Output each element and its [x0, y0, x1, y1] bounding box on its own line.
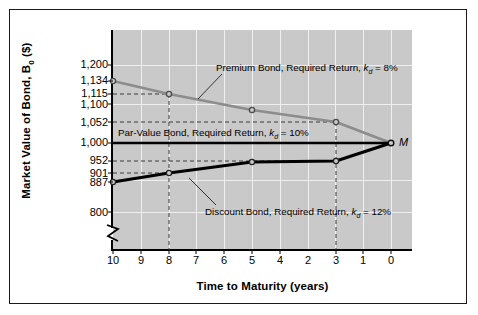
y-tick-label-1052: 1,052: [80, 116, 108, 128]
x-tick-label-0: 0: [379, 254, 403, 266]
y-tick-label-800: 800: [90, 206, 108, 218]
x-tick-label-5: 5: [240, 254, 264, 266]
y-tick-label-1000: 1,000: [80, 136, 108, 148]
y-axis-line: [111, 30, 113, 228]
x-tick-label-4: 4: [268, 254, 292, 266]
annotation-discount-k: kd: [352, 206, 361, 217]
y-tick-label-1200: 1,200: [80, 58, 108, 70]
x-axis-title: Time to Maturity (years): [113, 280, 412, 292]
x-tick-label-7: 7: [184, 254, 208, 266]
y-axis-title: Market Value of Bond, B0 ($): [20, 21, 35, 221]
gridline-horizontal: [113, 104, 412, 105]
y-tick-label-1134: 1,134: [80, 74, 108, 86]
axis-break-icon: [104, 224, 122, 244]
annotation-discount-bond: Discount Bond, Required Return, kd = 12%: [205, 206, 391, 219]
annotation-par-text: Par-Value Bond, Required Return,: [118, 127, 269, 138]
annotation-premium-text: Premium Bond, Required Return,: [216, 62, 364, 73]
gridline-vertical: [169, 30, 170, 250]
annotation-premium-value: = 8%: [372, 62, 397, 73]
x-tick-label-1: 1: [351, 254, 375, 266]
gridline-horizontal: [113, 180, 412, 181]
x-tick-label-9: 9: [129, 254, 153, 266]
x-tick-label-10: 10: [101, 254, 125, 266]
y-axis-title-subscript: 0: [27, 60, 36, 65]
x-tick-label-2: 2: [296, 254, 320, 266]
y-axis-title-main: Market Value of Bond, B: [20, 65, 32, 199]
gridline-vertical: [141, 30, 142, 250]
x-tick-label-8: 8: [157, 254, 181, 266]
y-tick-label-1100: 1,100: [80, 98, 108, 110]
annotation-par-k: kd: [269, 127, 278, 138]
annotation-premium-bond: Premium Bond, Required Return, kd = 8%: [216, 62, 398, 75]
annotation-par-value: = 10%: [278, 127, 309, 138]
bond-value-chart-figure: 1,200 1,134 1,115 1,100 1,052 1,000 952 …: [0, 0, 478, 315]
y-tick-label-887: 887: [90, 176, 108, 188]
annotation-discount-text: Discount Bond, Required Return,: [205, 206, 352, 217]
maturity-point-label: M: [399, 136, 408, 148]
y-tick-label-952: 952: [90, 154, 108, 166]
x-tick-label-3: 3: [324, 254, 348, 266]
x-tick-label-6: 6: [212, 254, 236, 266]
annotation-discount-value: = 12%: [360, 206, 391, 217]
gridline-vertical: [196, 30, 197, 250]
y-axis-title-tail: ($): [20, 43, 32, 61]
annotation-par-value-bond: Par-Value Bond, Required Return, kd = 10…: [118, 127, 309, 140]
x-axis-line: [111, 249, 412, 251]
